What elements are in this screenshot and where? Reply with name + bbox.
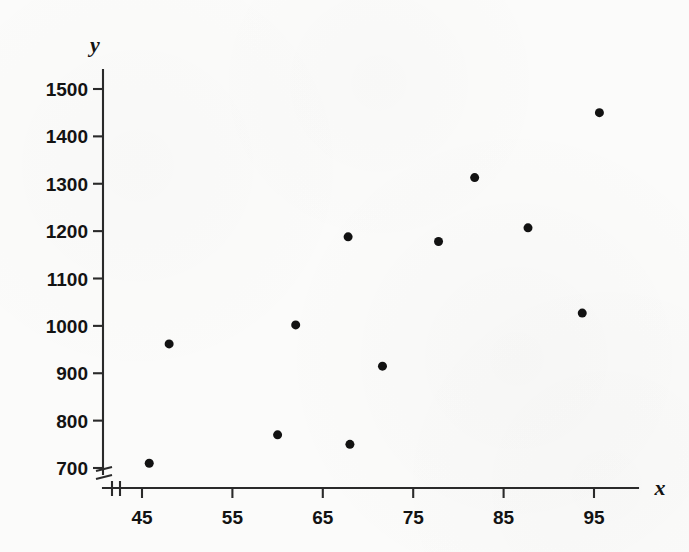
x-tick-label-65: 65 [312, 507, 334, 528]
y-axis-tick-labels: 700800900100011001200130014001500 [46, 79, 88, 479]
y-tick-label-1200: 1200 [46, 221, 88, 242]
x-tick-label-85: 85 [493, 507, 515, 528]
x-tick-label-75: 75 [403, 507, 425, 528]
x-axis-tick-labels: 455565758595 [131, 507, 605, 528]
y-tick-label-1300: 1300 [46, 174, 88, 195]
y-tick-label-700: 700 [56, 458, 88, 479]
x-tick-label-45: 45 [131, 507, 153, 528]
x-tick-label-55: 55 [222, 507, 244, 528]
data-point: (48, 962) [165, 339, 174, 348]
y-tick-label-800: 800 [56, 411, 88, 432]
data-point: (81.8, 1313) [470, 173, 479, 182]
data-point: (71.6, 915) [378, 362, 387, 371]
data-point: (95.6, 1450) [595, 108, 604, 117]
data-point: (60, 770) [273, 430, 282, 439]
data-point: (67.8, 1188) [344, 232, 353, 241]
x-tick-label-95: 95 [583, 507, 605, 528]
y-tick-label-1100: 1100 [47, 269, 88, 290]
plot-canvas: 700800900100011001200130014001500 455565… [0, 0, 689, 552]
data-point: (68, 750) [345, 440, 354, 449]
x-axis-ticks [142, 488, 594, 498]
data-point: (62, 1002) [291, 320, 300, 329]
data-point: (93.7, 1027) [578, 309, 587, 318]
x-axis-title: x [654, 475, 666, 500]
y-tick-label-900: 900 [56, 363, 88, 384]
y-axis-ticks [93, 89, 103, 468]
data-point: (87.7, 1207) [524, 223, 533, 232]
data-point: (77.8, 1178) [434, 237, 443, 246]
scatter-plot-figure: 700800900100011001200130014001500 455565… [0, 0, 689, 552]
y-tick-label-1000: 1000 [46, 316, 88, 337]
y-tick-label-1500: 1500 [46, 79, 88, 100]
y-axis-title: y [87, 32, 100, 57]
data-point-series: (45.8, 710)(48, 962)(60, 770)(62, 1002)(… [145, 108, 604, 468]
y-tick-label-1400: 1400 [46, 126, 88, 147]
data-point: (45.8, 710) [145, 459, 154, 468]
